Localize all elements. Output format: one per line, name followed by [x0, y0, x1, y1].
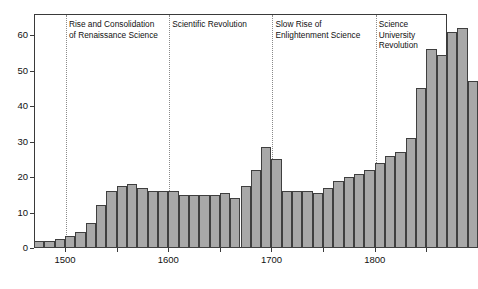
bar [210, 195, 220, 248]
bar [168, 191, 178, 248]
bar [55, 239, 65, 248]
bar [271, 159, 281, 248]
bar [333, 181, 343, 248]
era-annotation-label: Slow Rise of Enlightenment Science [275, 19, 360, 40]
bar [302, 191, 312, 248]
era-annotation-label: Rise and Consolidation of Renaissance Sc… [69, 19, 158, 40]
bar [375, 163, 385, 248]
bar [282, 191, 292, 248]
bar [230, 198, 240, 248]
bar [406, 138, 416, 248]
bar [437, 55, 447, 248]
bar [468, 81, 478, 248]
bar [220, 193, 230, 248]
bar [199, 195, 209, 248]
bar [385, 156, 395, 248]
era-annotation-label: Scientific Revolution [172, 19, 247, 30]
bar [364, 170, 374, 248]
bar [96, 205, 106, 248]
bar [292, 191, 302, 248]
bar [148, 191, 158, 248]
bar [323, 188, 333, 248]
bar [137, 188, 147, 248]
era-annotation-label: Science University Revolution [379, 19, 443, 51]
bar [179, 195, 189, 248]
bar [106, 191, 116, 248]
bar [457, 28, 467, 248]
bar [251, 170, 261, 248]
bar [44, 241, 54, 248]
bar [127, 184, 137, 248]
bar [189, 195, 199, 248]
bar [65, 236, 75, 248]
bar [447, 32, 457, 248]
bar [75, 232, 85, 248]
bar [158, 191, 168, 248]
bar [117, 186, 127, 248]
bar [354, 174, 364, 248]
bar [241, 186, 251, 248]
bar [86, 223, 96, 248]
bar [34, 241, 44, 248]
bar [416, 88, 426, 248]
bar [344, 177, 354, 248]
bar [261, 147, 271, 248]
bar [313, 193, 323, 248]
bar [426, 49, 436, 248]
bar [395, 152, 405, 248]
